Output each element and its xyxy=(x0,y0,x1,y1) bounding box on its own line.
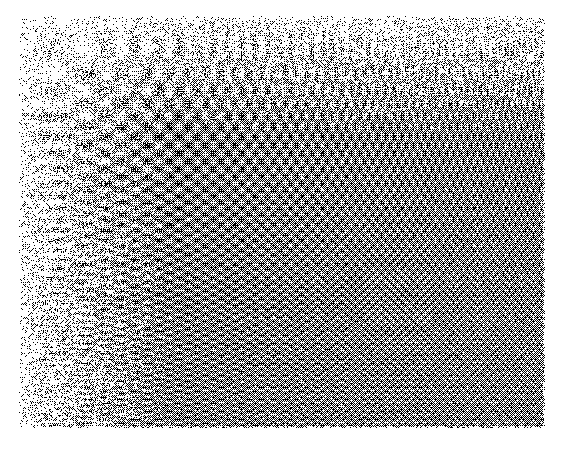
chirp-test-pattern-canvas xyxy=(18,15,546,429)
page-canvas xyxy=(0,0,580,450)
chirp-test-pattern-figure xyxy=(18,15,546,429)
